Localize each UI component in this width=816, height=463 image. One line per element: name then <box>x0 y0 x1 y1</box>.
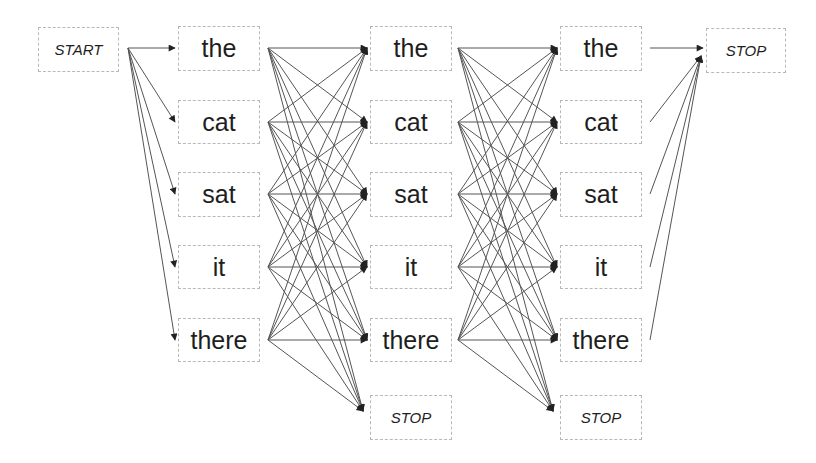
col2-node-it: it <box>370 245 452 289</box>
col3-node-the: the <box>560 26 642 71</box>
col1-node-cat: cat <box>178 100 260 144</box>
col2-stop-node: STOP <box>370 395 452 440</box>
start-node: START <box>38 27 119 72</box>
col1-node-sat: sat <box>178 172 260 217</box>
col2-node-the: the <box>370 26 452 71</box>
col1-node-there: there <box>178 318 260 362</box>
col3-node-cat: cat <box>560 100 642 144</box>
final-stop-node: STOP <box>706 28 786 73</box>
col2-node-cat: cat <box>370 100 452 144</box>
col3-node-it: it <box>560 245 642 289</box>
col1-node-it: it <box>178 245 260 289</box>
col3-node-sat: sat <box>560 172 642 217</box>
col3-node-there: there <box>560 318 642 362</box>
col2-node-sat: sat <box>370 172 452 217</box>
col1-node-the: the <box>178 26 260 71</box>
col3-stop-node: STOP <box>560 395 642 440</box>
col2-node-there: there <box>370 318 452 362</box>
